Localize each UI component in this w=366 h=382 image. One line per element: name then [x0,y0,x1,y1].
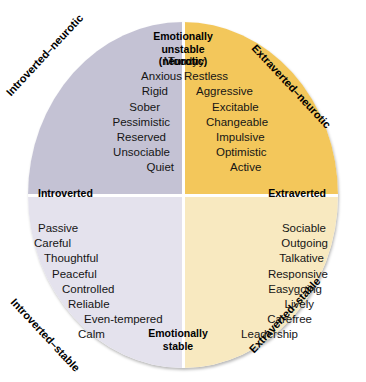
trait-item: Optimistic [216,145,268,160]
trait-item: Quiet [112,160,174,175]
axis-label-line: unstable [125,43,241,56]
trait-item: Unsociable [112,145,170,160]
trait-item: Even-tempered [84,312,163,327]
trait-item: Changeable [206,115,268,130]
eysenck-personality-circle: Moody Anxious Rigid Sober Pessimistic Re… [0,0,366,382]
axis-label-line: Emotionally [125,30,241,43]
axis-label-line: stable [120,340,236,353]
axis-label-introverted: Introverted [38,187,93,200]
trait-item: Reliable [68,297,163,312]
trait-item: Talkative [241,251,324,266]
trait-item: Impulsive [216,130,268,145]
trait-item: Passive [38,221,163,236]
axis-label-line: Emotionally [120,327,236,340]
trait-list-extraverted-neurotic: Touchy Restless Aggressive Excitable Cha… [206,54,268,176]
trait-item: Aggressive [196,84,268,99]
axis-label-line: (neurotic) [125,55,241,68]
trait-item: Restless [184,69,268,84]
trait-item: Excitable [212,100,268,115]
trait-item: Active [230,160,268,175]
axis-label-emotionally-unstable: Emotionally unstable (neurotic) [125,30,241,68]
trait-item: Outgoing [241,236,328,251]
trait-list-introverted-stable: Passive Careful Thoughtful Peaceful Cont… [38,221,163,343]
trait-item: Peaceful [52,267,163,282]
trait-item: Sociable [241,221,326,236]
trait-item: Sober [112,100,160,115]
axis-label-emotionally-stable: Emotionally stable [120,327,236,352]
trait-item: Reserved [112,130,166,145]
trait-item: Anxious [112,69,182,84]
trait-item: Controlled [62,282,163,297]
trait-item: Pessimistic [112,115,170,130]
trait-list-introverted-neurotic: Moody Anxious Rigid Sober Pessimistic Re… [112,54,160,176]
trait-item: Rigid [112,84,168,99]
trait-item: Thoughtful [44,251,163,266]
trait-item: Careful [34,236,163,251]
axis-label-extraverted: Extraverted [268,187,326,200]
